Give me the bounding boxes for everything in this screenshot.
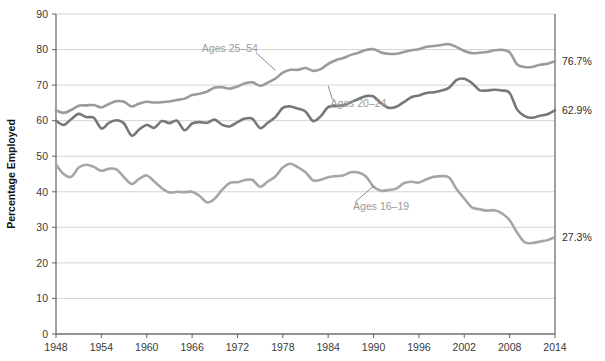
series-annotation-label-2: Ages 20–24 xyxy=(330,97,386,109)
y-tick-label-70: 70 xyxy=(36,79,48,91)
x-tick-label-1984: 1984 xyxy=(317,341,341,353)
y-tick-label-60: 60 xyxy=(36,114,48,126)
y-tick-label-10: 10 xyxy=(36,292,48,304)
y-tick-label-30: 30 xyxy=(36,221,48,233)
x-tick-label-1972: 1972 xyxy=(226,341,250,353)
x-tick-label-1978: 1978 xyxy=(271,341,295,353)
series-annotation-label-3: Ages 16–19 xyxy=(353,200,409,212)
y-tick-label-0: 0 xyxy=(42,328,48,340)
y-tick-label-50: 50 xyxy=(36,150,48,162)
annotation-leader-1 xyxy=(256,52,275,70)
x-tick-label-group: 1948195419601966197219781984199019962002… xyxy=(44,341,567,353)
series-line-25-54 xyxy=(56,44,555,113)
y-tick-label-group: 0102030405060708090 xyxy=(36,8,48,340)
end-value-label-group: 76.7%62.9%27.3% xyxy=(562,55,592,243)
x-tick-label-2008: 2008 xyxy=(498,341,522,353)
x-tick-label-1954: 1954 xyxy=(90,341,114,353)
employment-rate-line-chart: 0102030405060708090 19481954196019661972… xyxy=(0,0,605,361)
x-tick-label-1960: 1960 xyxy=(135,341,159,353)
end-value-label-3: 27.3% xyxy=(562,231,592,243)
end-value-label-2: 62.9% xyxy=(562,104,592,116)
y-tick-label-20: 20 xyxy=(36,257,48,269)
x-tick-label-1966: 1966 xyxy=(180,341,204,353)
y-axis-title: Percentage Employed xyxy=(5,119,17,229)
y-tick-label-90: 90 xyxy=(36,8,48,20)
y-tick-label-80: 80 xyxy=(36,43,48,55)
chart-canvas: 0102030405060708090 19481954196019661972… xyxy=(0,0,605,361)
series-line-16-19 xyxy=(56,164,555,244)
x-tick-label-2002: 2002 xyxy=(453,341,477,353)
gridline-group xyxy=(56,14,555,298)
x-tick-label-1948: 1948 xyxy=(44,341,68,353)
x-tick-label-1990: 1990 xyxy=(362,341,386,353)
end-value-label-1: 76.7% xyxy=(562,55,592,67)
series-path-group xyxy=(56,44,555,243)
x-tick-label-2014: 2014 xyxy=(543,341,567,353)
x-tick-label-1996: 1996 xyxy=(407,341,431,353)
y-tick-label-40: 40 xyxy=(36,186,48,198)
series-annotation-label-1: Ages 25–54 xyxy=(202,42,258,54)
